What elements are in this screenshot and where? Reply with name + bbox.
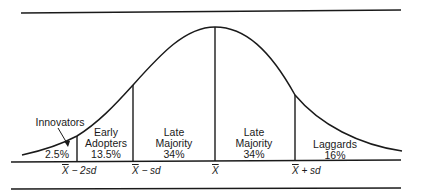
axis-label-mean: X (212, 165, 219, 176)
bottom-rule (11, 188, 401, 189)
early-adopters-percent: 13.5% (80, 149, 132, 160)
mean-symbol: X (132, 165, 139, 176)
bell-curve (22, 27, 402, 155)
top-rule (21, 10, 401, 13)
late-majority-right-label: Late Majority 34% (226, 127, 282, 160)
laggards-percent: 16% (307, 150, 363, 161)
early-adopters-label: Early Adopters 13.5% (80, 127, 132, 160)
axis-suffix: + sd (299, 165, 321, 176)
late-majority-left-label: Late Majority 34% (148, 127, 200, 160)
axis-label-minus-2sd: X − 2sd (62, 165, 96, 176)
late-majority-right-percent: 34% (226, 149, 282, 160)
mean-symbol: X (62, 165, 69, 176)
axis-label-minus-sd: X − sd (132, 165, 161, 176)
axis-suffix: − sd (139, 165, 161, 176)
innovators-percent: 2.5% (40, 149, 74, 160)
mean-symbol: X (292, 165, 299, 176)
mean-symbol: X (212, 165, 219, 176)
axis-label-plus-sd: X + sd (292, 165, 321, 176)
innovators-arrowhead (64, 141, 70, 147)
axis-suffix: − 2sd (69, 165, 97, 176)
adoption-curve-graphic (0, 0, 422, 191)
late-majority-left-percent: 34% (148, 149, 200, 160)
laggards-label: Laggards 16% (307, 139, 363, 161)
